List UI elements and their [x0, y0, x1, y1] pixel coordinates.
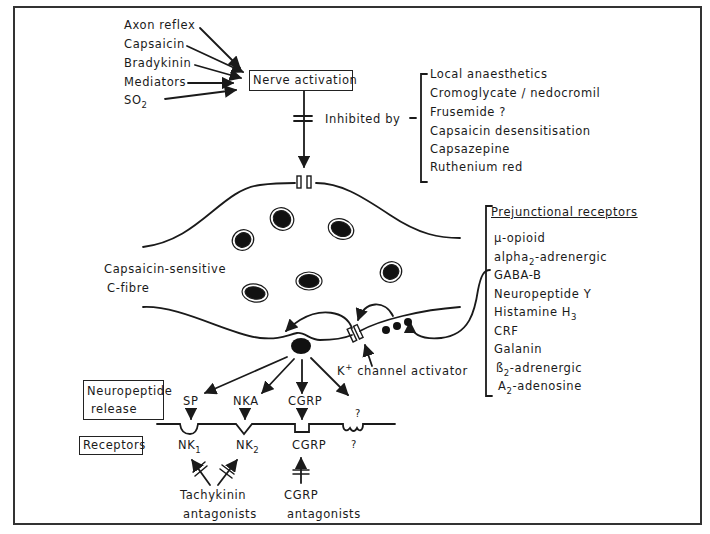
receptors-box: Receptors [79, 436, 143, 455]
receptor-unknown: ? [351, 438, 357, 452]
arrow-k-activator [365, 345, 372, 366]
inhibitor-item: Ruthenium red [430, 160, 523, 174]
arrow-tachykinin-nk1 [192, 460, 210, 485]
k-channel-activator-label: K+ channel activator [337, 364, 468, 378]
arrow-receptors-to-channel [358, 304, 393, 320]
prejunctional-item: ß2-adrenergic [496, 361, 582, 375]
neuropeptide-sp: SP [183, 394, 198, 408]
neuropeptide-nka: NKA [233, 394, 259, 408]
inhibitor-item: Capsazepine [430, 142, 510, 156]
prejunctional-item: alpha2-adrenergic [494, 250, 607, 264]
receptor-nk2: NK2 [236, 438, 259, 452]
neuropeptide-release-line2: release [91, 402, 160, 416]
arrow-release-nka [262, 359, 294, 393]
fibre-label-line2: C-fibre [107, 281, 149, 295]
prejunctional-item: Histamine H3 [494, 305, 577, 319]
prejunctional-heading: Prejunctional receptors [491, 205, 638, 219]
stimulus-axon-reflex: Axon reflex [124, 18, 195, 32]
inhibitor-item: Local anaesthetics [430, 67, 548, 81]
inhibition-mark [294, 116, 312, 121]
stimulus-so2: SO2 [124, 93, 148, 107]
inhibitor-item: Frusemide ? [430, 105, 506, 119]
tachykinin-antagonists-line1: Tachykinin [180, 488, 246, 502]
receptor-nk1: NK1 [178, 438, 201, 452]
prejunctional-connector [441, 270, 490, 338]
inhibitor-item: Cromoglycate / nedocromil [430, 86, 600, 100]
prejunctional-item: GABA-B [494, 268, 542, 282]
stimulus-mediators: Mediators [124, 75, 186, 89]
neuropeptide-unknown: ? [355, 407, 361, 421]
fibre-label-line1: Capsaicin-sensitive [104, 262, 226, 276]
tachykinin-antagonists-line2: antagonists [183, 507, 257, 521]
arrow-channel-to-vesicle [286, 312, 352, 331]
nerve-activation-box: Nerve activation [249, 70, 353, 91]
prejunctional-bracket [486, 206, 492, 396]
arrow-capsaicin [187, 46, 243, 72]
docked-vesicle [291, 338, 311, 354]
arrow-so2 [165, 90, 236, 99]
prejunctional-item: Galanin [494, 342, 542, 356]
prejunctional-item: Neuropeptide Y [494, 287, 591, 301]
neuropeptide-cgrp: CGRP [288, 394, 322, 408]
inhibited-by-label: Inhibited by [325, 112, 401, 126]
prejunctional-item: μ-opioid [494, 231, 545, 245]
nerve-activation-label: Nerve activation [253, 73, 349, 87]
receptors-box-label: Receptors [83, 438, 139, 452]
cgrp-antagonists-line2: antagonists [287, 507, 361, 521]
arrow-prejunctional-loop [410, 322, 441, 338]
neuropeptide-release-line1: Neuropeptide [87, 384, 160, 398]
inhibited-by-bracket [421, 74, 427, 182]
prejunctional-item: A2-adenosine [498, 379, 582, 393]
prejunctional-item: CRF [494, 324, 518, 338]
receptor-cgrp: CGRP [292, 438, 326, 452]
stimulus-bradykinin: Bradykinin [124, 56, 191, 70]
arrow-release-sp [205, 357, 287, 393]
postjunctional-membrane [157, 424, 395, 434]
stimulus-capsaicin: Capsaicin [124, 37, 185, 51]
inhibitor-item: Capsaicin desensitisation [430, 124, 591, 138]
cgrp-antagonists-line1: CGRP [284, 488, 318, 502]
neuropeptide-release-box: Neuropeptide release [83, 380, 164, 420]
arrow-tachykinin-nk2 [218, 460, 237, 485]
